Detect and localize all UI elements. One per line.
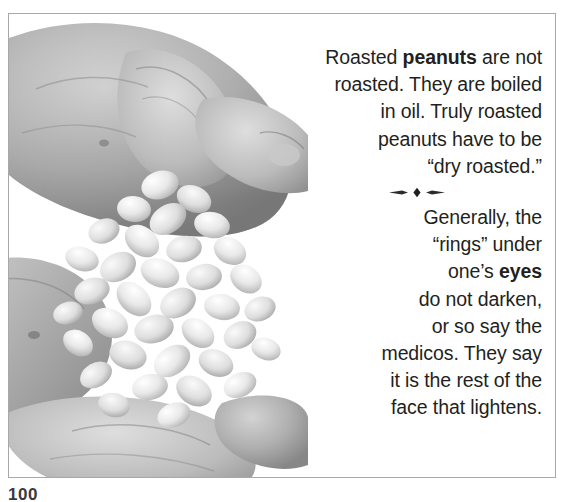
divider-ornament-icon	[389, 187, 445, 198]
page-number: 100	[8, 486, 38, 502]
trivia-text-column: Roasted peanuts are not roasted. They ar…	[294, 44, 542, 422]
paragraph-1-bold-word: peanuts	[403, 46, 477, 68]
trivia-paragraph-eyes: Generally, the “rings” under one’s eyes …	[294, 204, 542, 422]
diamond-ornament-divider	[294, 180, 542, 204]
trivia-paragraph-peanuts: Roasted peanuts are not roasted. They ar…	[294, 44, 542, 180]
book-page: Roasted peanuts are not roasted. They ar…	[0, 0, 563, 502]
peanuts-in-hands-photo	[8, 13, 308, 478]
photo-illustration	[8, 13, 308, 478]
page-frame: Roasted peanuts are not roasted. They ar…	[8, 13, 556, 478]
paragraph-1-lead: Roasted	[325, 46, 402, 68]
paragraph-2-tail: do not darken, or so say the medicos. Th…	[381, 288, 542, 419]
paragraph-2-bold-word: eyes	[499, 260, 542, 282]
